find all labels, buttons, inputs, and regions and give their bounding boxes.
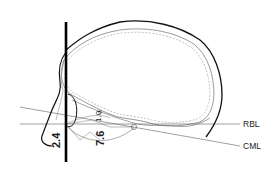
measurement-2-4: 2.4 xyxy=(50,132,62,148)
cml-label: CML xyxy=(243,141,261,151)
measurement-1-0: 1.0 xyxy=(94,110,103,122)
skull-diagram: RBL CML 2.4 7.6 1.0 xyxy=(0,0,274,173)
face-profile xyxy=(42,52,66,146)
skull-inner-contour-2 xyxy=(65,32,210,122)
skull-inner-contour-1 xyxy=(61,29,214,126)
rbl-label: RBL xyxy=(243,119,260,129)
measurement-7-6: 7.6 xyxy=(94,131,106,146)
skull-base-contour xyxy=(72,100,210,127)
